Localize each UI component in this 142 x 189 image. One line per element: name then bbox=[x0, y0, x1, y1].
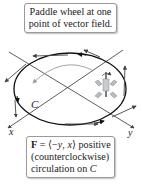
paddle-wheel-icon bbox=[95, 72, 117, 98]
paddle-wheel-callout: Paddle wheel at one point of vector fiel… bbox=[24, 3, 117, 33]
rotation-arrow-icon bbox=[33, 65, 92, 83]
field-tail: ⟩ positive bbox=[72, 139, 111, 150]
y-axis bbox=[9, 52, 134, 128]
curve-direction-arrow bbox=[96, 121, 104, 123]
x-axis-label: x bbox=[9, 126, 13, 137]
curve-label: C bbox=[31, 98, 38, 110]
callout-line-2: (counterclockwise) bbox=[31, 151, 114, 163]
callout-line-1: Paddle wheel at one bbox=[25, 6, 116, 18]
callout-line-2: point of vector field. bbox=[25, 18, 116, 30]
y-axis-label: y bbox=[128, 127, 132, 138]
circulation-callout: F = ⟨−y, x⟩ positive (counterclockwise) … bbox=[26, 136, 115, 178]
line3-prefix: circulation on bbox=[31, 163, 90, 174]
curve-var: C bbox=[90, 163, 97, 174]
axes bbox=[8, 50, 134, 128]
field-eq: = ⟨− bbox=[37, 139, 58, 150]
field-definition: F = ⟨−y, x⟩ positive bbox=[31, 139, 114, 151]
callout-line-3: circulation on C bbox=[31, 163, 114, 175]
